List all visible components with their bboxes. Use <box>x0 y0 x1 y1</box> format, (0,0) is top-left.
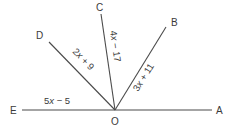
expression-angle-BOA: 3x + 11 <box>130 61 156 93</box>
expr-rest: − 5 <box>54 95 70 106</box>
vertex-label-O: O <box>111 116 119 127</box>
expr-rest: + 11 <box>136 61 156 84</box>
point-label-B: B <box>171 17 178 28</box>
point-label-C: C <box>96 2 103 13</box>
point-label-E: E <box>10 105 17 116</box>
angle-diagram: A B C D E O 5x − 5 2x + 9 4x − 17 3x + 1… <box>0 0 232 131</box>
point-label-D: D <box>36 30 43 41</box>
expression-angle-EOD: 5x − 5 <box>44 95 70 106</box>
expression-angle-COB: 4x − 17 <box>108 30 123 63</box>
point-label-A: A <box>216 105 223 116</box>
expr-rest: − 17 <box>109 40 123 63</box>
ray-OB <box>115 27 166 110</box>
